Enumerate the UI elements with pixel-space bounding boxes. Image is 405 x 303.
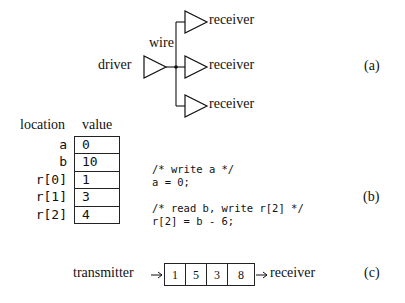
- queue-cell-3: 3: [206, 263, 228, 286]
- value-a: 0: [82, 137, 90, 152]
- location-a: a: [20, 137, 67, 152]
- code-line-2: r[2] = b - 6;: [152, 215, 234, 228]
- queue-cell-2: 5: [185, 263, 207, 286]
- location-r2: r[2]: [20, 207, 67, 222]
- value-r1: 3: [82, 189, 90, 204]
- location-r1: r[1]: [20, 189, 67, 204]
- receiver-label-1: receiver: [209, 12, 254, 28]
- receiver-label-3: receiver: [209, 96, 254, 112]
- value-header: value: [82, 117, 112, 133]
- receiver-triangle-icon: [185, 95, 207, 117]
- code-line-1: a = 0;: [152, 176, 190, 189]
- receiver-label-2: receiver: [209, 57, 254, 73]
- location-b: b: [20, 154, 67, 169]
- driver-label: driver: [98, 57, 131, 73]
- code-comment-2: /* read b, write r[2] */: [152, 202, 304, 215]
- panel-a-tag: (a): [364, 58, 380, 74]
- panel-b-tag: (b): [363, 189, 379, 205]
- panel-c-tag: (c): [364, 265, 380, 281]
- queue-cell-4: 8: [227, 263, 255, 286]
- queue-cell-1: 1: [164, 263, 186, 286]
- location-r0: r[0]: [20, 172, 67, 187]
- receiver-triangle-icon: [185, 11, 207, 33]
- value-r0: 1: [82, 172, 90, 187]
- location-header: location: [20, 117, 65, 133]
- wire-label: wire: [149, 35, 174, 51]
- value-r2: 4: [82, 207, 90, 222]
- receiver-triangle-icon: [185, 56, 207, 78]
- transmitter-label: transmitter: [73, 265, 134, 281]
- driver-triangle-icon: [144, 56, 166, 78]
- code-comment-1: /* write a */: [152, 163, 234, 176]
- receiver-label-c: receiver: [270, 265, 315, 281]
- value-b: 10: [82, 154, 98, 169]
